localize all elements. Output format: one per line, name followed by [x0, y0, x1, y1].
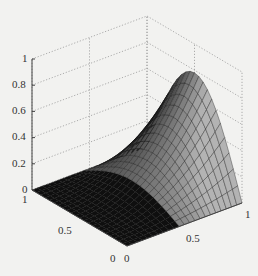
- surface-mesh: [32, 71, 242, 246]
- y-tick-0: 0: [110, 253, 116, 264]
- z-tick-0.6: 0.6: [12, 105, 26, 116]
- z-tick-1: 1: [22, 53, 28, 64]
- z-tick-0.4: 0.4: [12, 131, 26, 142]
- z-tick-0.8: 0.8: [12, 79, 26, 90]
- y-tick-0.5: 0.5: [58, 225, 72, 236]
- surface-plot: [0, 0, 258, 276]
- z-tick-0.2: 0.2: [12, 158, 26, 169]
- y-tick-1: 1: [22, 194, 28, 205]
- x-tick-0.5: 0.5: [186, 233, 200, 244]
- x-tick-1: 1: [245, 209, 251, 220]
- x-tick-0: 0: [124, 253, 130, 264]
